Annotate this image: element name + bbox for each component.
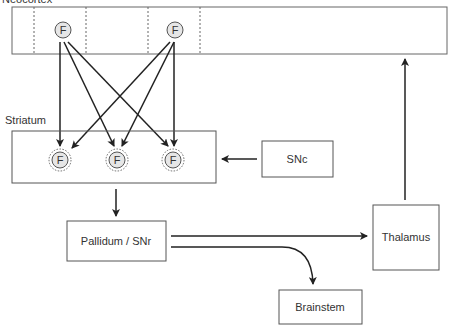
svg-text:F: F [170, 154, 177, 166]
diagram-canvas: Neocortex F F Striatum F F [0, 0, 452, 329]
corticostriatal-arrows [60, 42, 174, 148]
cortex-neuron-2: F [167, 22, 183, 38]
cortex-label: Neocortex [2, 0, 53, 5]
brainstem-label: Brainstem [295, 301, 345, 313]
striatal-neuron-2: F [106, 149, 128, 171]
cortex-neuron-1: F [55, 22, 71, 38]
svg-text:F: F [172, 24, 179, 36]
striatal-neuron-3: F [162, 149, 184, 171]
snc-label: SNc [287, 153, 308, 165]
thalamus-label: Thalamus [382, 231, 431, 243]
svg-text:F: F [60, 24, 67, 36]
svg-text:F: F [57, 154, 64, 166]
pallidum-snr-label: Pallidum / SNr [81, 235, 152, 247]
basal-ganglia-diagram: Neocortex F F Striatum F F [0, 0, 452, 329]
pallidum-to-brainstem-arrow [171, 247, 313, 284]
striatal-neuron-1: F [49, 149, 71, 171]
cortex-box [12, 7, 447, 54]
striatum-label: Striatum [5, 114, 46, 126]
svg-text:F: F [114, 154, 121, 166]
